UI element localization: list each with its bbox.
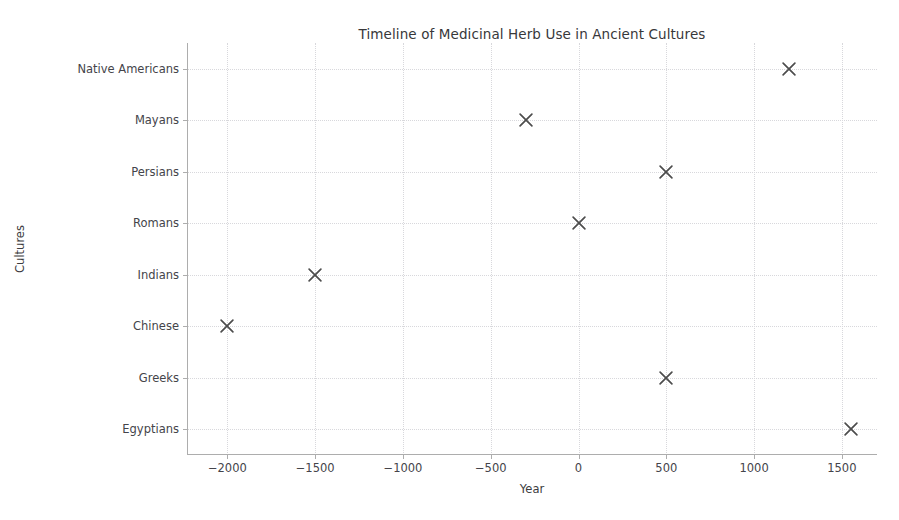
y-tick-label: Mayans (135, 113, 179, 127)
y-tick-mark (183, 378, 187, 379)
x-gridline (315, 43, 316, 455)
x-tick-mark (491, 455, 492, 459)
y-tick-label: Persians (131, 165, 179, 179)
x-tick-mark (842, 455, 843, 459)
chart-title: Timeline of Medicinal Herb Use in Ancien… (187, 26, 877, 42)
x-tick-mark (403, 455, 404, 459)
y-tick-mark (183, 429, 187, 430)
x-tick-mark (315, 455, 316, 459)
x-tick-label: 500 (655, 461, 677, 475)
y-tick-mark (183, 326, 187, 327)
x-axis-spine (187, 454, 877, 455)
y-tick-mark (183, 172, 187, 173)
x-gridline (842, 43, 843, 455)
y-tick-label: Chinese (133, 319, 179, 333)
plot-area: −2000−1500−1000−500050010001500Native Am… (187, 43, 877, 455)
y-axis-label-text: Cultures (13, 225, 27, 273)
chart-figure: Timeline of Medicinal Herb Use in Ancien… (0, 0, 899, 520)
y-gridline (187, 223, 877, 224)
x-gridline (227, 43, 228, 455)
x-gridline (491, 43, 492, 455)
x-gridline (666, 43, 667, 455)
x-tick-label: 1000 (739, 461, 768, 475)
y-tick-mark (183, 120, 187, 121)
y-tick-label: Romans (133, 216, 179, 230)
y-tick-label: Greeks (139, 371, 179, 385)
x-tick-mark (754, 455, 755, 459)
x-gridline (754, 43, 755, 455)
y-tick-label: Egyptians (122, 422, 179, 436)
x-tick-label: −1500 (296, 461, 335, 475)
y-gridline (187, 120, 877, 121)
y-tick-label: Indians (137, 268, 179, 282)
x-tick-label: 1500 (827, 461, 856, 475)
y-tick-mark (183, 275, 187, 276)
x-tick-mark (579, 455, 580, 459)
y-gridline (187, 69, 877, 70)
y-axis-label: Cultures (10, 43, 30, 455)
x-gridline (579, 43, 580, 455)
x-tick-mark (666, 455, 667, 459)
x-gridline (403, 43, 404, 455)
y-gridline (187, 275, 877, 276)
x-tick-mark (227, 455, 228, 459)
x-axis-label: Year (187, 482, 877, 496)
x-tick-label: −2000 (208, 461, 247, 475)
y-gridline (187, 429, 877, 430)
y-gridline (187, 378, 877, 379)
x-tick-label: 0 (575, 461, 582, 475)
y-gridline (187, 326, 877, 327)
x-tick-label: −500 (475, 461, 507, 475)
y-axis-spine (187, 43, 188, 455)
y-gridline (187, 172, 877, 173)
x-tick-label: −1000 (384, 461, 423, 475)
y-tick-mark (183, 223, 187, 224)
y-tick-label: Native Americans (77, 62, 179, 76)
y-tick-mark (183, 69, 187, 70)
